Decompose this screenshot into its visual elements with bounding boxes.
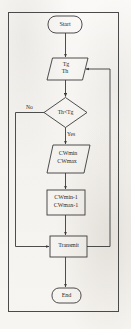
branch-label-no: No: [26, 104, 33, 110]
node-input-cw-shape: [47, 145, 90, 173]
node-process-shape: [47, 190, 85, 215]
flowchart-graphics: [0, 0, 131, 329]
node-transmit-shape: [50, 236, 87, 257]
node-start-shape: [48, 16, 82, 33]
node-decision-shape: [44, 98, 87, 128]
flowchart-page: Start Tg Th Th<Tg CWmin CWmax CWmin-1 CW…: [0, 0, 131, 329]
edge-decision-no-to-transmit: [16, 113, 50, 247]
node-input-t-shape: [47, 58, 88, 80]
edge-transmit-feedback-to-input: [86, 69, 110, 247]
node-end-shape: [52, 288, 81, 303]
branch-label-yes: Yes: [67, 131, 75, 137]
